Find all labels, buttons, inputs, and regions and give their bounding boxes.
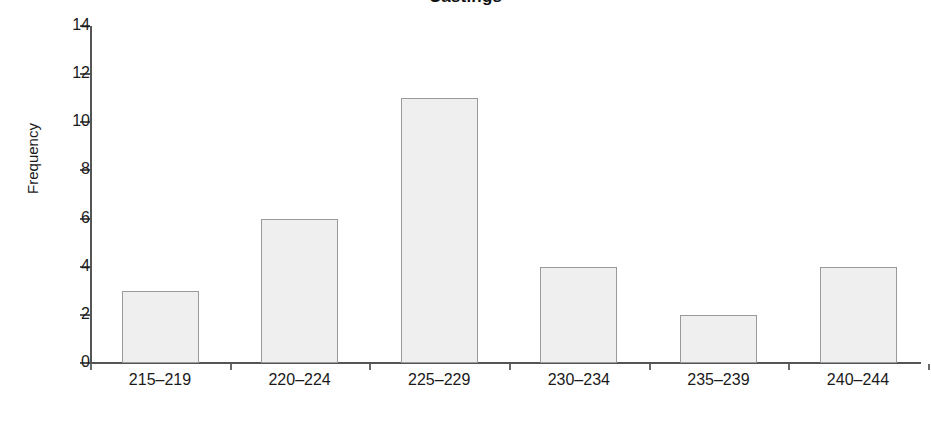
histogram-chart: Castings Frequency 02468101214 215–21922… bbox=[0, 0, 931, 422]
x-tick-label: 240–244 bbox=[788, 371, 928, 389]
bar bbox=[401, 98, 478, 363]
x-tick-mark bbox=[788, 364, 790, 370]
x-tick-label: 235–239 bbox=[649, 371, 789, 389]
x-tick-label: 225–229 bbox=[369, 371, 509, 389]
bar bbox=[261, 219, 338, 363]
x-tick-label: 215–219 bbox=[90, 371, 230, 389]
x-tick-mark bbox=[509, 364, 511, 370]
bar bbox=[820, 267, 897, 363]
bar bbox=[122, 291, 199, 363]
bar bbox=[680, 315, 757, 363]
bar bbox=[540, 267, 617, 363]
x-tick-mark bbox=[90, 364, 92, 370]
x-tick-mark bbox=[230, 364, 232, 370]
x-tick-mark bbox=[928, 364, 930, 370]
bars-layer: 215–219220–224225–229230–234235–239240–2… bbox=[0, 0, 931, 422]
x-tick-mark bbox=[649, 364, 651, 370]
x-tick-label: 220–224 bbox=[230, 371, 370, 389]
x-tick-label: 230–234 bbox=[509, 371, 649, 389]
x-tick-mark bbox=[369, 364, 371, 370]
